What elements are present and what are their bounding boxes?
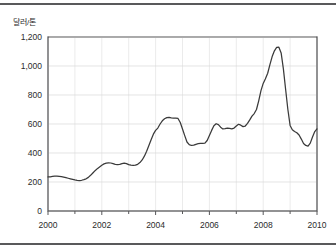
- svg-text:2008: 2008: [254, 220, 273, 230]
- svg-text:200: 200: [28, 177, 42, 187]
- svg-text:600: 600: [28, 119, 42, 129]
- svg-text:2002: 2002: [92, 220, 111, 230]
- x-axis-tick-labels: 200020022004200620082010: [39, 220, 327, 230]
- svg-text:2004: 2004: [146, 220, 165, 230]
- svg-text:400: 400: [28, 148, 42, 158]
- chart-figure: 달러/톤 02004006008001,0001,200 20002002200…: [0, 0, 336, 250]
- svg-text:0: 0: [37, 206, 42, 216]
- plot-area-wrapper: 02004006008001,0001,200 2000200220042006…: [0, 0, 336, 250]
- line-chart-svg: 02004006008001,0001,200 2000200220042006…: [0, 0, 336, 250]
- svg-text:2010: 2010: [308, 220, 327, 230]
- svg-text:800: 800: [28, 90, 42, 100]
- y-axis-tick-labels: 02004006008001,0001,200: [21, 32, 43, 216]
- svg-text:1,000: 1,000: [21, 61, 43, 71]
- svg-text:1,200: 1,200: [21, 32, 43, 42]
- svg-text:2000: 2000: [39, 220, 58, 230]
- svg-text:2006: 2006: [200, 220, 219, 230]
